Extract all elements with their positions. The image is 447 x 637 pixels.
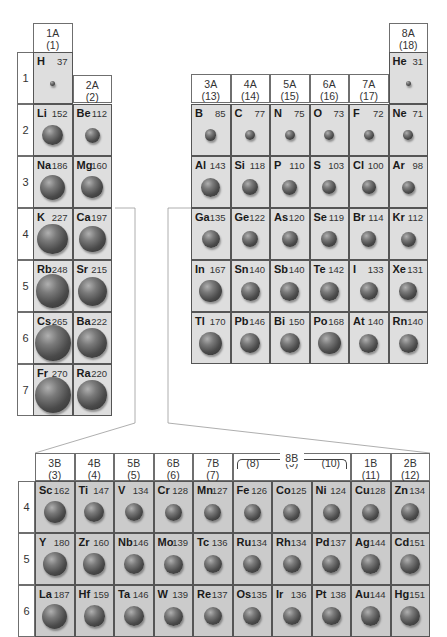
group-header: 2B(12): [391, 453, 431, 481]
period-label: 1: [17, 52, 34, 104]
atom-sphere-icon: [204, 607, 222, 625]
atom-sphere-icon: [400, 606, 420, 626]
atom-sphere-icon: [83, 553, 105, 575]
element-cell-la: La187: [35, 585, 75, 637]
element-symbol: La: [39, 588, 52, 600]
atomic-radius: 167: [210, 264, 226, 275]
atomic-radius: 151: [409, 537, 425, 548]
atomic-radius: 128: [172, 485, 188, 496]
atom-sphere-icon: [282, 180, 297, 195]
element-cell-o: O73: [310, 104, 350, 156]
atomic-radius: 114: [368, 212, 383, 223]
group-label: 4B: [76, 457, 114, 469]
atom-sphere-icon: [362, 504, 379, 521]
atomic-radius: 126: [251, 485, 267, 496]
atomic-radius: 227: [52, 212, 68, 223]
atom-sphere-icon: [283, 607, 301, 625]
atom-sphere-icon: [242, 179, 258, 195]
atomic-radius: 162: [54, 485, 70, 496]
element-symbol: Rn: [393, 315, 408, 327]
atomic-radius: 73: [333, 108, 344, 119]
element-cell-pb: Pb146: [231, 312, 271, 364]
element-symbol: Cr: [158, 484, 170, 496]
atomic-radius: 37: [57, 56, 68, 67]
atomic-radius: 140: [407, 316, 423, 327]
atom-sphere-icon: [285, 130, 295, 140]
element-symbol: C: [235, 107, 243, 119]
group-label: 4A: [232, 78, 270, 90]
group-header: 3B(3): [35, 453, 75, 481]
atomic-radius: 112: [92, 108, 107, 119]
atom-sphere-icon: [406, 81, 411, 86]
element-symbol: Y: [39, 536, 46, 548]
group-number: (11): [352, 469, 390, 481]
atom-sphere-icon: [280, 282, 299, 301]
element-symbol: Ag: [355, 536, 370, 548]
element-symbol: S: [314, 159, 321, 171]
element-cell-v: V134: [114, 481, 154, 533]
element-cell-fe: Fe126: [233, 481, 273, 533]
atom-sphere-icon: [322, 607, 341, 626]
atomic-radius: 77: [254, 108, 265, 119]
atomic-radius: 135: [210, 212, 226, 223]
element-cell-ba: Ba222: [73, 312, 113, 364]
element-symbol: Br: [353, 211, 365, 223]
group-header: 4A(14): [231, 74, 271, 103]
element-symbol: Cu: [355, 484, 370, 496]
atomic-radius: 142: [328, 264, 344, 275]
group-label: 3B: [36, 457, 74, 469]
atom-sphere-icon: [241, 282, 260, 301]
element-cell-mo: Mo139: [154, 533, 194, 585]
atomic-radius: 103: [328, 160, 344, 171]
element-symbol: Ca: [77, 211, 91, 223]
atomic-radius: 134: [291, 537, 307, 548]
atomic-radius: 128: [370, 485, 386, 496]
element-cell-cu: Cu128: [351, 481, 391, 533]
atomic-radius: 140: [368, 316, 384, 327]
atomic-radius: 100: [368, 160, 384, 171]
element-symbol: Rh: [276, 536, 291, 548]
element-symbol: Zn: [395, 484, 408, 496]
atom-sphere-icon: [322, 180, 336, 194]
element-cell-ge: Ge122: [231, 208, 271, 260]
element-cell-ga: Ga135: [191, 208, 231, 260]
atomic-radius: 137: [212, 589, 228, 600]
atom-sphere-icon: [124, 554, 144, 574]
atomic-radius: 112: [408, 212, 423, 223]
atomic-radius: 197: [91, 212, 107, 223]
atom-sphere-icon: [165, 504, 182, 521]
element-symbol: Au: [355, 588, 370, 600]
group-label: 7A: [350, 78, 388, 90]
atom-sphere-icon: [204, 504, 221, 521]
element-symbol: Al: [195, 159, 206, 171]
atomic-radius: 125: [291, 485, 307, 496]
element-cell-te: Te142: [310, 260, 350, 312]
atom-sphere-icon: [401, 503, 419, 521]
atomic-radius: 136: [212, 537, 228, 548]
element-symbol: He: [393, 55, 407, 67]
element-symbol: Co: [276, 484, 291, 496]
element-symbol: Pb: [235, 315, 249, 327]
atom-sphere-icon: [199, 280, 222, 303]
element-cell-co: Co125: [272, 481, 312, 533]
atom-sphere-icon: [36, 274, 69, 307]
element-symbol: Ge: [235, 211, 250, 223]
element-symbol: Sn: [235, 263, 249, 275]
element-symbol: Rb: [37, 263, 52, 275]
element-cell-hg: Hg151: [391, 585, 431, 637]
atomic-radius: 31: [412, 56, 423, 67]
element-symbol: Hg: [395, 588, 410, 600]
atomic-radius: 186: [52, 160, 68, 171]
atom-sphere-icon: [164, 555, 183, 574]
atomic-radius: 138: [330, 589, 346, 600]
element-symbol: N: [274, 107, 282, 119]
atom-sphere-icon: [360, 282, 378, 300]
element-symbol: Po: [314, 315, 328, 327]
atom-sphere-icon: [359, 334, 378, 353]
atom-sphere-icon: [280, 333, 300, 353]
element-cell-au: Au144: [351, 585, 391, 637]
group-number: (6): [155, 469, 193, 481]
atom-sphere-icon: [35, 377, 71, 413]
element-cell-s: S103: [310, 156, 350, 208]
element-cell-ni: Ni124: [312, 481, 352, 533]
